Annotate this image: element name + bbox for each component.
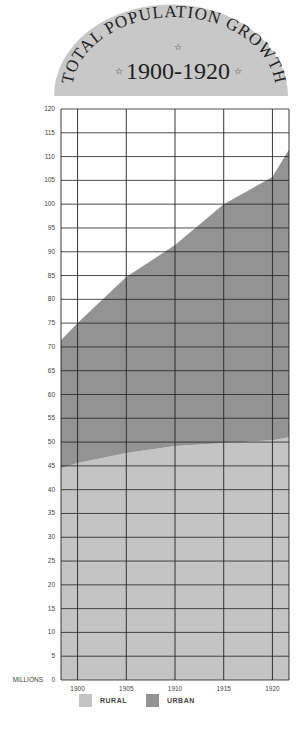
y-tick-label: 120 <box>44 105 55 112</box>
y-tick-label: 30 <box>48 533 56 540</box>
y-tick-label: 70 <box>48 343 56 350</box>
x-tick-label: 1905 <box>119 685 134 692</box>
y-tick-label: 75 <box>48 319 56 326</box>
star-icon: ☆ <box>234 66 242 76</box>
x-tick-label: 1920 <box>265 685 280 692</box>
y-tick-label: 90 <box>48 248 56 255</box>
y-tick-label: 60 <box>48 391 56 398</box>
x-tick-label: 1915 <box>216 685 231 692</box>
y-tick-label: 55 <box>48 414 56 421</box>
legend-item-urban: URBAN <box>146 694 195 707</box>
y-tick-label: 65 <box>48 367 56 374</box>
y-tick-label: 50 <box>48 438 56 445</box>
y-tick-label: 20 <box>48 581 56 588</box>
y-tick-label: 115 <box>45 129 56 136</box>
y-axis-ticks: 0510152025303540455055606570758085909510… <box>44 105 55 683</box>
y-tick-label: 110 <box>45 153 56 160</box>
y-tick-label: 10 <box>48 628 56 635</box>
y-tick-label: 0 <box>51 676 55 683</box>
legend-item-rural: RURAL <box>79 694 127 707</box>
rural-swatch <box>79 694 92 707</box>
banner-years: 1900-1920 <box>126 58 230 84</box>
title-banner: TOTAL POPULATION GROWTH ☆ ☆ ☆ 1900-1920 <box>0 0 307 100</box>
y-tick-label: 95 <box>48 224 56 231</box>
y-tick-label: 25 <box>48 557 56 564</box>
y-tick-label: 15 <box>48 605 56 612</box>
y-tick-label: 105 <box>44 176 55 183</box>
star-icon: ☆ <box>115 66 123 76</box>
star-icon: ☆ <box>174 42 182 52</box>
y-tick-label: 40 <box>48 486 56 493</box>
y-axis-label: MILLIONS <box>13 676 44 683</box>
x-tick-label: 1900 <box>70 685 85 692</box>
y-tick-label: 80 <box>48 295 56 302</box>
y-tick-label: 45 <box>48 462 56 469</box>
legend-label-urban: URBAN <box>167 697 195 704</box>
population-area-chart: 0510152025303540455055606570758085909510… <box>0 100 307 737</box>
y-tick-label: 35 <box>48 509 56 516</box>
x-axis-ticks: 19001905191019151920 <box>70 685 280 692</box>
y-tick-label: 85 <box>48 272 56 279</box>
x-tick-label: 1910 <box>168 685 183 692</box>
y-tick-label: 100 <box>44 200 55 207</box>
y-tick-label: 5 <box>51 652 55 659</box>
urban-swatch <box>146 694 159 707</box>
legend-label-rural: RURAL <box>100 697 127 704</box>
